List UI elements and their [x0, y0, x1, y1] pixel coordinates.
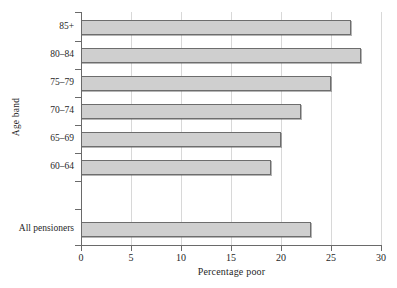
bar: [81, 222, 311, 237]
y-tick-label-60-64: 60–64: [0, 161, 74, 171]
x-tick-5: [131, 246, 132, 251]
plot-area: [81, 12, 381, 245]
x-tick-label-15: 15: [211, 252, 251, 263]
x-tick-15: [231, 246, 232, 251]
bar: [81, 132, 281, 147]
x-tick-25: [331, 246, 332, 251]
y-tick-2: [75, 69, 81, 70]
y-tick-7: [75, 209, 81, 210]
bar: [81, 20, 351, 35]
y-tick-6: [75, 181, 81, 182]
y-tick-label-group: 85+ 80–84 75–79 70–74 65–69 60–64 All pe…: [0, 0, 74, 288]
y-tick-1: [75, 41, 81, 42]
x-tick-label-5: 5: [111, 252, 151, 263]
x-tick-label-10: 10: [161, 252, 201, 263]
y-tick-4: [75, 125, 81, 126]
x-tick-20: [281, 246, 282, 251]
y-tick-5: [75, 153, 81, 154]
bar-chart: Age band 85+ 80–84 75–79 70–74 65–69 60–…: [0, 0, 397, 288]
x-tick-10: [181, 246, 182, 251]
bar: [81, 104, 301, 119]
y-tick-0: [75, 12, 81, 13]
x-tick-label-0: 0: [61, 252, 101, 263]
x-tick-label-30: 30: [361, 252, 397, 263]
x-tick-30: [381, 246, 382, 251]
y-tick-3: [75, 97, 81, 98]
y-tick-label-70-74: 70–74: [0, 105, 74, 115]
y-tick-label-65-69: 65–69: [0, 133, 74, 143]
gridline-30: [381, 12, 382, 245]
x-axis-title: Percentage poor: [81, 266, 382, 277]
x-tick-label-20: 20: [261, 252, 301, 263]
y-axis-line: [81, 12, 82, 246]
x-tick-label-25: 25: [311, 252, 351, 263]
y-tick-label-75-79: 75–79: [0, 77, 74, 87]
y-tick-label-85-plus: 85+: [0, 21, 74, 31]
x-tick-0: [81, 246, 82, 251]
bar: [81, 76, 331, 91]
y-tick-label-80-84: 80–84: [0, 49, 74, 59]
y-tick-label-all-pensioners: All pensioners: [0, 223, 74, 233]
bar: [81, 48, 361, 63]
bar: [81, 160, 271, 175]
